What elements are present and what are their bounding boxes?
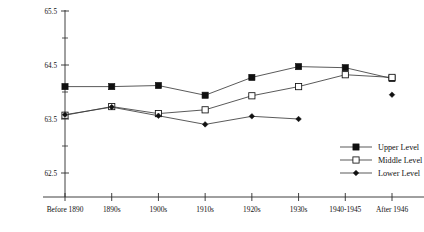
x-axis-tick-label: 1940-1945 [329,205,361,214]
x-axis-tick-label: 1910s [196,205,214,214]
legend-label[interactable]: Lower Level [378,169,421,178]
data-point-upper-level[interactable] [295,64,301,70]
x-axis-tick-label: 1930s [290,205,308,214]
data-point-middle-level[interactable] [295,84,301,90]
data-point-upper-level[interactable] [342,65,348,71]
data-point-upper-level[interactable] [249,74,255,80]
x-axis-tick-label: 1900s [150,205,168,214]
legend-label[interactable]: Upper Level [378,143,420,152]
data-point-upper-level[interactable] [109,84,115,90]
data-point-lower-level[interactable] [353,170,359,176]
data-point-lower-level[interactable] [296,116,302,122]
data-point-middle-level[interactable] [249,93,255,99]
data-point-lower-level[interactable] [249,114,255,120]
data-point-upper-level[interactable] [155,82,161,88]
x-axis-tick-label: Before 1890 [47,205,84,214]
legend-label[interactable]: Middle Level [378,156,423,165]
x-axis-tick-label: After 1946 [376,205,409,214]
x-axis-tick-label: 1890s [103,205,121,214]
y-axis-tick-label: 65.5 [44,8,57,16]
data-point-upper-level[interactable] [353,144,359,150]
y-axis-tick-label: 63.5 [44,116,57,124]
line-chart: 62.563.564.565.5Before 18901890s1900s191… [0,0,424,232]
y-axis-tick-label: 64.5 [44,62,57,70]
data-point-middle-level[interactable] [202,107,208,113]
chart-canvas: 62.563.564.565.5Before 18901890s1900s191… [0,0,424,232]
data-point-middle-level[interactable] [353,157,359,163]
data-point-upper-level[interactable] [202,92,208,98]
data-point-middle-level[interactable] [342,72,348,78]
data-point-lower-level[interactable] [389,92,395,98]
x-axis-tick-label: 1920s [243,205,261,214]
data-point-upper-level[interactable] [62,84,68,90]
data-point-lower-level[interactable] [202,122,208,128]
data-point-middle-level[interactable] [389,74,395,80]
y-axis-tick-label: 62.5 [44,170,57,178]
